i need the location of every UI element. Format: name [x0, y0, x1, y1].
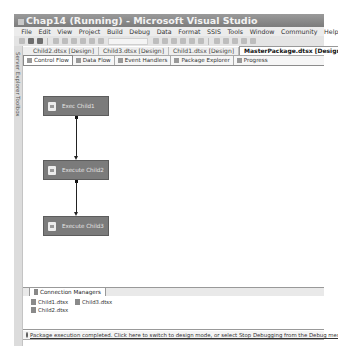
progress-icon — [237, 58, 242, 63]
window-icon[interactable] — [189, 38, 195, 44]
debug-status-bar: Package execution completed. Click here … — [23, 331, 324, 340]
tab-label: Package Explorer — [181, 56, 229, 65]
window-title: Chap14 (Running) - Microsoft Visual Stud… — [26, 15, 257, 26]
menu-project[interactable]: Project — [75, 27, 103, 36]
server-explorer-tab[interactable]: Server Explorer — [15, 52, 21, 95]
connection-managers-tabbar: Connection Managers — [23, 287, 324, 296]
tab-child3-design[interactable]: Child3.dtsx [Design] — [99, 47, 169, 55]
tab-child2-design[interactable]: Child2.dtsx [Design] — [29, 47, 99, 55]
tab-label: Event Handlers — [125, 56, 168, 65]
tab-label: Connection Managers — [40, 288, 101, 296]
tab-masterpackage-design[interactable]: MasterPackage.dtsx [Design] — [239, 46, 338, 55]
control-flow-canvas[interactable]: Exec Child1 Execute Child2 Execute Child… — [23, 66, 324, 286]
menu-window[interactable]: Window — [246, 27, 277, 36]
info-icon — [26, 332, 28, 338]
precedence-constraint-2[interactable] — [76, 182, 77, 214]
designer-tabs: Control Flow Data Flow Event Handlers Pa… — [23, 56, 324, 66]
task-execute-child3[interactable]: Execute Child3 — [43, 216, 109, 236]
toolbar-separator — [208, 38, 209, 45]
toolbox-icon[interactable] — [180, 38, 186, 44]
tab-package-explorer[interactable]: Package Explorer — [171, 56, 233, 65]
file-connection-icon — [75, 299, 80, 305]
connection-managers-area: Child1.dtsx Child3.dtsx Child2.dtsx — [23, 296, 324, 330]
tab-connection-managers[interactable]: Connection Managers — [29, 287, 106, 296]
stop-icon[interactable] — [232, 38, 238, 44]
control-flow-icon — [27, 58, 32, 63]
connection-child2[interactable]: Child2.dtsx — [31, 307, 68, 313]
solution-config-dropdown[interactable] — [108, 38, 148, 45]
menu-ssis[interactable]: SSIS — [204, 27, 224, 36]
toolbox-tab[interactable]: Toolbox — [15, 96, 21, 117]
continue-icon[interactable] — [214, 38, 220, 44]
copy-icon[interactable] — [62, 38, 68, 44]
menu-view[interactable]: View — [54, 27, 76, 36]
precedence-constraint-1[interactable] — [76, 118, 77, 158]
menu-edit[interactable]: Edit — [35, 27, 54, 36]
tab-data-flow[interactable]: Data Flow — [73, 56, 115, 65]
tab-event-handlers[interactable]: Event Handlers — [115, 56, 172, 65]
toolbar-separator — [47, 38, 48, 45]
pause-icon[interactable] — [223, 38, 229, 44]
switch-to-design-mode-link[interactable]: Package execution completed. Click here … — [30, 332, 338, 338]
tab-child1-design[interactable]: Child1.dtsx [Design] — [169, 47, 239, 55]
tab-label: Progress — [244, 56, 268, 65]
menu-tools[interactable]: Tools — [224, 27, 246, 36]
file-connection-icon — [31, 299, 36, 305]
visual-studio-icon — [18, 19, 24, 25]
properties-icon[interactable] — [171, 38, 177, 44]
restart-icon[interactable] — [241, 38, 247, 44]
data-flow-icon — [76, 58, 81, 63]
task-exec-child1[interactable]: Exec Child1 — [43, 96, 109, 116]
file-connection-icon — [31, 307, 36, 313]
execute-package-task-icon — [48, 102, 56, 111]
menu-help[interactable]: Help — [321, 27, 338, 36]
task-label: Exec Child1 — [62, 103, 95, 109]
menu-build[interactable]: Build — [104, 27, 126, 36]
standard-toolbar — [14, 36, 324, 46]
tab-label: Control Flow — [34, 56, 69, 65]
connection-label: Child1.dtsx — [38, 299, 68, 305]
menu-debug[interactable]: Debug — [126, 27, 153, 36]
new-project-icon[interactable] — [19, 38, 25, 44]
solution-explorer-icon[interactable] — [162, 38, 168, 44]
package-explorer-icon — [174, 58, 179, 63]
menu-community[interactable]: Community — [278, 27, 321, 36]
menu-format[interactable]: Format — [175, 27, 204, 36]
connection-manager-icon — [34, 289, 38, 295]
task-label: Execute Child3 — [62, 223, 104, 229]
step-icon[interactable] — [250, 38, 256, 44]
paste-icon[interactable] — [71, 38, 77, 44]
task-label: Execute Child2 — [62, 167, 104, 173]
connection-label: Child3.dtsx — [82, 299, 112, 305]
menu-data[interactable]: Data — [153, 27, 175, 36]
redo-icon[interactable] — [89, 38, 95, 44]
title-bar: Chap14 (Running) - Microsoft Visual Stud… — [14, 14, 324, 27]
save-icon[interactable] — [28, 38, 34, 44]
undo-icon[interactable] — [80, 38, 86, 44]
menu-file[interactable]: File — [18, 27, 35, 36]
find-icon[interactable] — [153, 38, 159, 44]
tab-progress[interactable]: Progress — [234, 56, 271, 65]
start-debug-icon[interactable] — [98, 38, 104, 44]
tab-control-flow[interactable]: Control Flow — [23, 55, 73, 66]
execute-package-task-icon — [48, 222, 56, 231]
connection-child3[interactable]: Child3.dtsx — [75, 299, 112, 305]
menu-bar: File Edit View Project Build Debug Data … — [14, 27, 324, 36]
save-all-icon[interactable] — [37, 38, 43, 44]
cut-icon[interactable] — [53, 38, 59, 44]
task-execute-child2[interactable]: Execute Child2 — [43, 160, 109, 180]
execute-package-task-icon — [48, 166, 56, 175]
event-handlers-icon — [118, 58, 123, 63]
tab-label: Data Flow — [83, 56, 111, 65]
connection-label: Child2.dtsx — [38, 307, 68, 313]
dropdown-arrow-icon[interactable] — [198, 38, 204, 44]
connection-child1[interactable]: Child1.dtsx — [31, 299, 68, 305]
side-tool-strip: Server Explorer Toolbox — [14, 46, 23, 346]
